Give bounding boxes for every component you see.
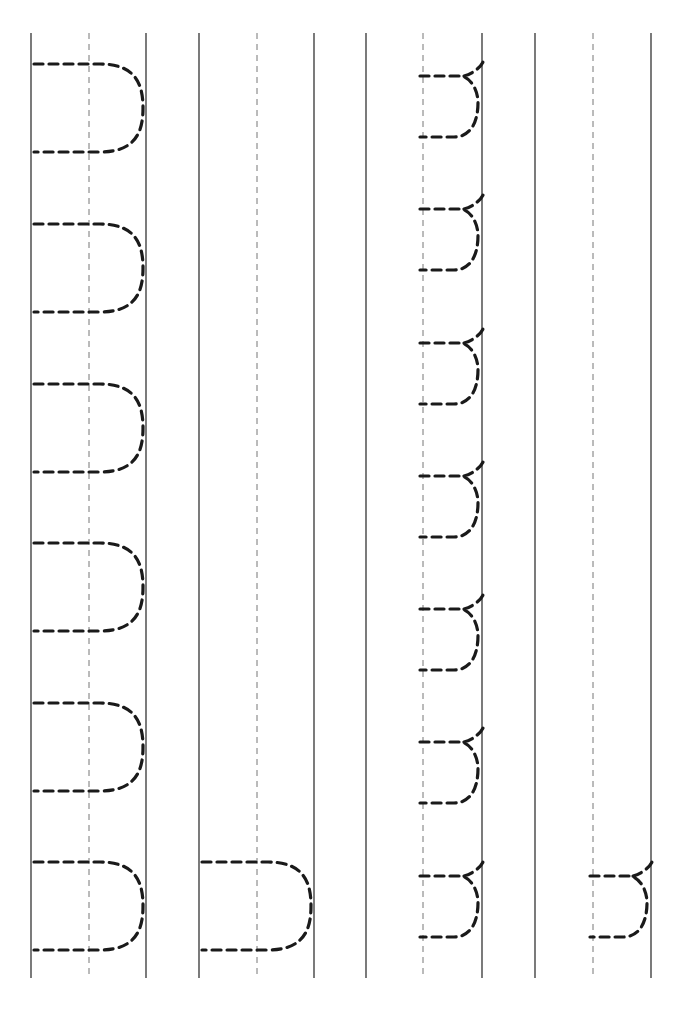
dotted-letter-U-trace — [34, 384, 143, 472]
ruling-lines — [31, 33, 651, 978]
dotted-letter-u-trace — [420, 728, 483, 803]
dotted-letter-U-trace — [202, 862, 311, 950]
dotted-letter-u-trace — [420, 862, 483, 937]
dotted-letter-u-trace — [420, 329, 483, 404]
dotted-letter-U-trace — [34, 862, 143, 950]
dotted-letter-u-trace — [420, 462, 483, 537]
dotted-letter-u-trace — [590, 862, 652, 937]
dotted-letter-U-trace — [34, 64, 143, 152]
dotted-letter-U-trace — [34, 543, 143, 631]
traceable-letters — [34, 62, 652, 950]
dotted-letter-u-trace — [420, 195, 483, 270]
dotted-letter-u-trace — [420, 595, 483, 670]
dotted-letter-U-trace — [34, 703, 143, 791]
dotted-letter-u-trace — [420, 62, 483, 137]
tracing-worksheet — [0, 0, 689, 1025]
dotted-letter-U-trace — [34, 224, 143, 312]
